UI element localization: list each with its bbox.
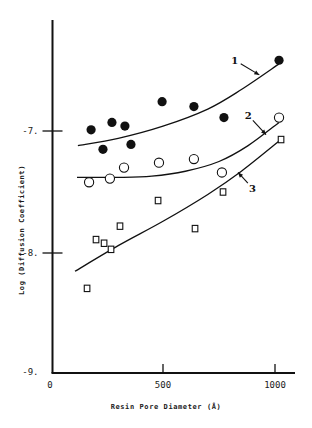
point-series-1 — [98, 145, 107, 154]
x-tick-label: 1000 — [264, 380, 286, 390]
chart: 05001000-7.-8.-9. 123 Resin Pore Diamete… — [0, 0, 312, 428]
x-tick-label: 500 — [155, 380, 171, 390]
y-tick-label: -9. — [22, 367, 38, 377]
point-series-3 — [84, 285, 90, 291]
y-axis-label: Log (Diffusion Coefficient) — [18, 165, 26, 295]
point-series-2 — [154, 158, 163, 167]
point-series-2 — [274, 113, 283, 122]
point-series-2 — [105, 174, 114, 183]
point-series-3 — [117, 223, 123, 229]
point-series-3 — [278, 136, 284, 142]
fit-curve-1 — [78, 64, 279, 146]
curve-label-2: 2 — [245, 110, 252, 121]
point-series-1 — [126, 140, 135, 149]
point-series-2 — [119, 163, 128, 172]
point-series-1 — [120, 122, 129, 131]
point-series-1 — [107, 118, 116, 127]
point-series-3 — [101, 240, 107, 246]
point-series-1 — [219, 113, 228, 122]
point-series-3 — [155, 197, 161, 203]
data-points — [84, 56, 284, 292]
point-series-1 — [189, 102, 198, 111]
curve-label-1: 1 — [231, 55, 238, 66]
fit-curve-3 — [75, 140, 281, 272]
point-series-2 — [217, 168, 226, 177]
axes: 05001000-7.-8.-9. — [22, 20, 295, 390]
x-axis-label: Resin Pore Diameter (Å) — [111, 402, 222, 411]
point-series-3 — [192, 225, 198, 231]
x-tick-label: 0 — [47, 380, 52, 390]
point-series-1 — [158, 97, 167, 106]
point-series-3 — [93, 236, 99, 242]
point-series-3 — [108, 246, 114, 252]
point-series-2 — [84, 178, 93, 187]
point-series-1 — [274, 56, 283, 65]
point-series-1 — [86, 125, 95, 134]
point-series-3 — [220, 189, 226, 195]
point-series-2 — [189, 154, 198, 163]
curve-label-3: 3 — [249, 183, 256, 194]
y-tick-label: -7. — [22, 126, 38, 136]
